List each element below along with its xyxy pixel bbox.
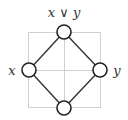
label-right: y — [112, 63, 121, 78]
label-left: x — [8, 63, 16, 78]
edge-right-bottom — [64, 70, 100, 108]
background-grid — [28, 32, 101, 108]
node-bottom — [57, 101, 71, 115]
node-top — [57, 25, 71, 39]
node-right — [93, 63, 107, 77]
node-left — [22, 63, 36, 77]
label-top: x ∨ y — [48, 5, 81, 20]
edge-top-right — [64, 32, 100, 70]
hasse-diagram: x ∨ y x y — [0, 0, 128, 120]
